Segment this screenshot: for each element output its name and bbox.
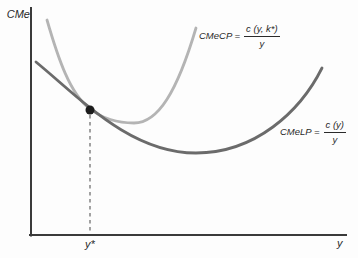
average-cost-chart: CMe CMeCP = c (y, k*) y CMeLP = c (y) y … [0,0,358,258]
y-axis-label: CMe [6,9,30,20]
cmecp-formula-numerator: c (y, k*) [244,24,280,37]
cmecp-curve-label: CMeCP = c (y, k*) y [199,24,280,48]
cmecp-formula-lhs: CMeCP = [199,31,240,41]
cmelp-curve-label: CMeLP = c (y) y [280,120,346,144]
x-axis-label: y [337,238,343,249]
cmecp-formula-denominator: y [259,37,264,49]
cmecp-curve [47,20,196,123]
cmelp-formula-numerator: c (y) [324,120,346,133]
cmelp-formula-denominator: y [332,133,337,145]
x-tick-label-y-star: y* [78,239,102,250]
cmelp-formula-lhs: CMeLP = [280,127,320,137]
tangency-point-dot [86,106,95,115]
cmecp-formula-fraction: c (y, k*) y [244,24,280,48]
cmelp-formula-fraction: c (y) y [324,120,346,144]
